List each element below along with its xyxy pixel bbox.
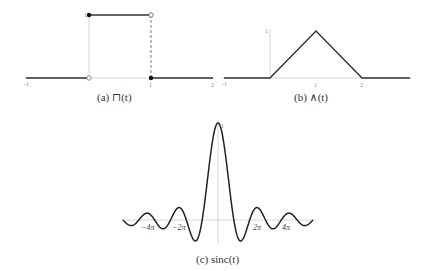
tick-label: 1 (221, 123, 224, 129)
rect-open-point (87, 76, 91, 80)
caption-sinc: (c) sinc(t) (196, 253, 239, 265)
tick-label: 2π (253, 223, 262, 232)
triangle-plot: -1 1 2 1 (222, 28, 412, 88)
caption-rect: (a) ⊓(t) (97, 91, 132, 104)
rect-filled-point (149, 76, 153, 80)
tick-label: -1 (24, 81, 29, 87)
tick-label: 2 (211, 82, 214, 88)
tick-label: 1 (314, 82, 317, 88)
figure-canvas: -1 1 2 1 -1 1 2 1 1 −4π −2π 2π 4π (0, 0, 430, 271)
tick-label: −4π (141, 223, 155, 232)
tick-label: 1 (84, 12, 87, 18)
sinc-plot: 1 −4π −2π 2π 4π (121, 120, 316, 244)
rect-filled-point (87, 13, 91, 17)
tick-label: 4π (282, 223, 291, 232)
caption-triangle: (b) ∧(t) (294, 91, 328, 104)
tick-label: 2 (360, 82, 363, 88)
tick-label: 1 (149, 82, 152, 88)
rect-open-point (149, 13, 153, 17)
tick-label: −2π (172, 223, 186, 232)
tick-label: -1 (222, 81, 227, 87)
triangle-curve (224, 31, 410, 78)
rect-plot: -1 1 2 1 (24, 12, 214, 88)
tick-label: 1 (265, 28, 268, 34)
